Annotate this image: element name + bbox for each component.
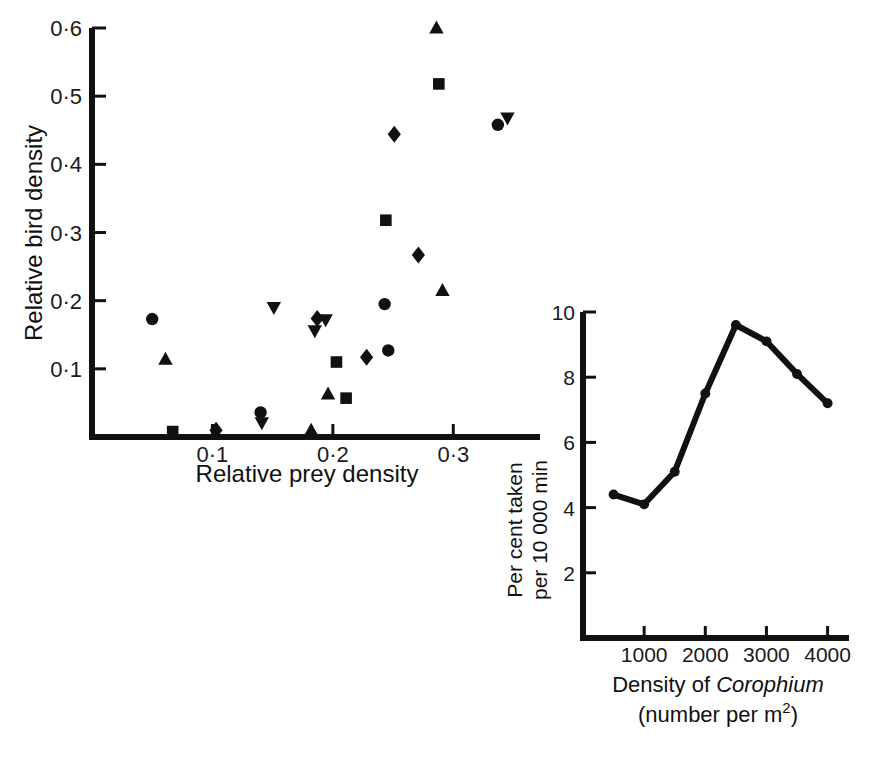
scatter-point-circle (378, 298, 390, 310)
scatter-point-triangle-up (321, 387, 335, 400)
line-series-markers (609, 320, 833, 509)
line-data-point (823, 398, 833, 408)
scatter-point-circle (492, 119, 504, 131)
line-y-axis-title-line1: Per cent taken (503, 462, 526, 597)
line-data-point (731, 320, 741, 330)
scatter-point-diamond (388, 126, 401, 143)
scatter-y-tick-label: 0·5 (50, 84, 82, 109)
scatter-point-diamond (412, 246, 425, 263)
line-data-point (761, 336, 771, 346)
scatter-point-triangle-up (429, 21, 443, 34)
line-x-tick-label: 3000 (743, 643, 790, 666)
scatter-point-square (340, 392, 352, 404)
scatter-x-tick-label: 0·3 (437, 442, 469, 467)
line-x-tick-label: 4000 (804, 643, 851, 666)
scatter-y-tick-label: 0·3 (50, 221, 82, 246)
line-y-axis-title: Per cent taken per 10 000 min (503, 460, 551, 600)
line-axes (580, 312, 849, 638)
line-x-axis-subtitle: (number per m2) (638, 699, 798, 727)
scatter-point-diamond (311, 310, 324, 327)
line-x-axis-title-prefix: Density of (612, 672, 716, 697)
scatter-point-circle (146, 313, 158, 325)
line-data-point (670, 467, 680, 477)
line-x-axis-title-species: Corophium (716, 672, 824, 697)
line-x-axis-subtitle-suffix: ) (791, 702, 798, 727)
scatter-point-triangle-up (435, 283, 449, 296)
line-data-point (639, 499, 649, 509)
line-y-tick-labels: 246810 (552, 301, 576, 585)
line-y-tick-label: 4 (563, 497, 575, 520)
line-x-tick-label: 1000 (621, 643, 668, 666)
scatter-y-tick-label: 0·1 (50, 357, 82, 382)
scatter-point-circle (382, 344, 394, 356)
line-x-tick-label: 2000 (682, 643, 729, 666)
scatter-point-triangle-down (267, 302, 281, 315)
scatter-y-tick-label: 0·2 (50, 289, 82, 314)
line-x-tick-labels: 1000200030004000 (621, 643, 851, 666)
scatter-point-diamond (360, 349, 373, 366)
scatter-y-tick-labels: 0·10·20·30·40·50·6 (50, 16, 82, 382)
line-y-tick-label: 10 (552, 301, 575, 324)
scatter-point-square (380, 214, 392, 226)
scatter-y-tick-label: 0·6 (50, 16, 82, 41)
line-data-point (700, 389, 710, 399)
line-data-point (609, 490, 619, 500)
scatter-points (146, 21, 515, 439)
scatter-point-triangle-down (255, 417, 269, 430)
line-chart: 246810 1000200030004000 Per cent taken p… (503, 301, 851, 727)
scatter-axes (89, 28, 540, 437)
line-y-axis-title-line2: per 10 000 min (528, 460, 551, 600)
scatter-point-square (331, 356, 343, 368)
scatter-x-axis-title: Relative prey density (196, 460, 419, 487)
line-data-point (792, 369, 802, 379)
line-x-axis-title: Density of Corophium (612, 672, 824, 697)
line-y-tick-label: 8 (563, 366, 575, 389)
line-y-tick-label: 2 (563, 562, 575, 585)
scatter-point-triangle-up (304, 423, 318, 436)
scatter-point-triangle-up (158, 352, 172, 365)
scatter-chart: 0·10·20·30·40·50·6 0·10·20·3 Relative bi… (20, 16, 540, 487)
scatter-point-circle (254, 406, 266, 418)
scatter-y-axis-title: Relative bird density (20, 125, 47, 341)
scatter-point-triangle-down (308, 325, 322, 338)
scatter-y-tick-label: 0·4 (50, 152, 82, 177)
line-series-path (614, 325, 828, 504)
line-x-axis-subtitle-prefix: (number per m (638, 702, 782, 727)
line-y-tick-label: 6 (563, 431, 575, 454)
line-x-axis-subtitle-superscript: 2 (782, 699, 790, 716)
scatter-point-square (433, 78, 445, 90)
scatter-point-square (167, 426, 179, 438)
figure-container: 0·10·20·30·40·50·6 0·10·20·3 Relative bi… (0, 0, 877, 758)
figure-svg: 0·10·20·30·40·50·6 0·10·20·3 Relative bi… (0, 0, 877, 758)
